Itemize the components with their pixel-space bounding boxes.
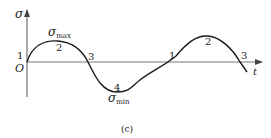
point-label-2: 2 <box>56 42 62 53</box>
sigma-max-subscript: max <box>56 32 71 40</box>
sigma-min-subscript: min <box>116 98 130 106</box>
stress-cycle-diagram: σ t O σmax σmin 1 2 3 4 1 2 3 (c) <box>0 0 271 138</box>
point-label-1: 1 <box>17 50 23 61</box>
figure-caption: (c) <box>121 124 133 134</box>
sigma-min-label: σmin <box>108 91 130 106</box>
x-axis-label: t <box>253 66 258 77</box>
sigma-max-label: σmax <box>48 25 71 40</box>
point-label-4: 4 <box>114 82 120 93</box>
origin-label: O <box>15 62 24 75</box>
point-label-3b: 3 <box>241 50 247 61</box>
point-label-1b: 1 <box>169 50 175 61</box>
point-label-2b: 2 <box>205 36 211 47</box>
point-label-3: 3 <box>88 51 94 62</box>
y-axis-label: σ <box>15 7 24 21</box>
